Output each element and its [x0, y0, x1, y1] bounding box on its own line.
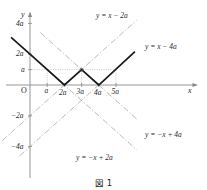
x-axis-label: x [188, 87, 192, 95]
x-tick-label-5a: 5a [112, 88, 120, 96]
equation-label-x-minus-2a: y = x − 2a [96, 12, 128, 20]
x-tick-label-a: a [45, 87, 49, 95]
y-axis-label: y [21, 11, 25, 19]
y-tick-label-4a: 4a [16, 20, 24, 28]
equation-label-x-minus-4a: y = x − 4a [145, 43, 177, 51]
figure-container: x y O a 2a 3a 4a 5a a 2a 4a −2a −4a y = … [0, 0, 207, 190]
y-axis-arrow [28, 12, 32, 18]
x-axis-arrow [193, 83, 199, 87]
equation-label-neg-x-plus-4a: y = −x + 4a [145, 131, 182, 139]
figure-caption: 図 1 [0, 176, 207, 188]
origin-label: O [21, 87, 27, 95]
equation-label-neg-x-plus-2a: y = −x + 2a [76, 154, 113, 162]
x-tick-label-4a: 4a [94, 89, 102, 97]
x-tick-label-2a: 2a [59, 89, 67, 97]
x-tick-label-3a: 3a [77, 88, 85, 96]
y-tick-label-2a: 2a [16, 50, 24, 58]
y-tick-label-neg-2a: −2a [11, 112, 24, 120]
y-tick-label-a: a [21, 66, 25, 74]
y-tick-label-neg-4a: −4a [11, 143, 24, 151]
